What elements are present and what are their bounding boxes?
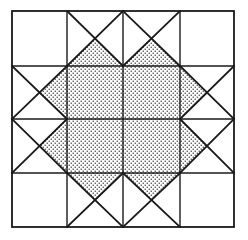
quilt-block-svg (0, 0, 248, 240)
quilt-block-figure (0, 0, 248, 240)
